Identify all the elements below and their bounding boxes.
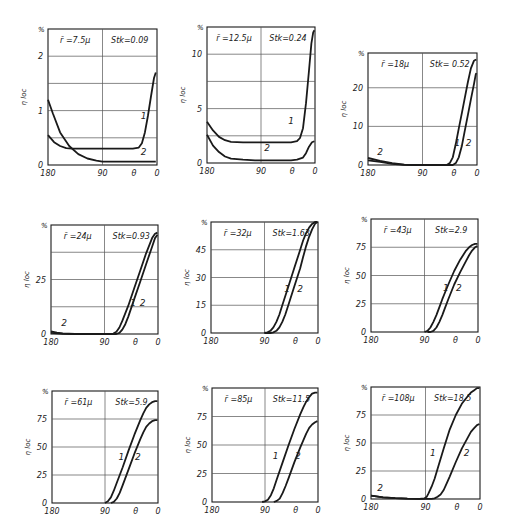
x-tick-label: 90 <box>260 506 270 515</box>
curve-label: 1 <box>443 283 449 293</box>
unit-label: % <box>202 385 209 393</box>
x-tick-label: 90 <box>417 169 427 178</box>
radius-label: r̄ =7.5μ <box>60 36 90 45</box>
chart-panel-2: r̄ =12.5μStk=0.24%0510η loc18090θ012 <box>179 24 318 176</box>
curve-2 <box>274 421 318 502</box>
x-tick-label: 0 <box>312 167 317 176</box>
x-tick-label: 0 <box>315 337 320 346</box>
curve-label: 2 <box>456 283 462 293</box>
curve-label: 2 <box>464 448 470 458</box>
curve-label: 2 <box>377 147 383 157</box>
x-tick-label: 180 <box>203 337 218 346</box>
x-tick-label: 90 <box>259 337 269 346</box>
y-axis-label: η loc <box>179 86 187 103</box>
unit-label: % <box>38 26 45 34</box>
radius-label: r̄ =108μ <box>382 394 415 403</box>
x-tick-label: θ <box>132 169 137 178</box>
curve-label: 1. <box>455 138 464 148</box>
stokes-label: Stk=0.93 <box>113 232 150 241</box>
y-tick-label: 25 <box>36 276 46 285</box>
curve-label: 2 <box>466 138 472 148</box>
unit-label: % <box>201 219 208 227</box>
x-tick-label: 180 <box>204 506 219 515</box>
y-tick-label: 1 <box>38 107 43 116</box>
x-tick-label: 90 <box>99 338 109 347</box>
y-tick-label: 25 <box>356 467 366 476</box>
x-tick-label: 180 <box>40 169 55 178</box>
chart-panel-3: r̄ =18μStk= 0.52%01020η loc18090θ01.22 <box>340 50 480 178</box>
curve-label: 1 <box>288 116 294 126</box>
y-tick-label: 45 <box>196 246 206 255</box>
x-tick-label: θ <box>133 338 138 347</box>
chart-panel-8: r̄ =85μStk=11.5%0255075η loc18090θ012 <box>184 385 321 515</box>
chart-panel-7: r̄ =61μStk=5.9%0255075η loc18090θ012 <box>24 388 161 516</box>
curve-1 <box>105 401 157 503</box>
chart-panel-5: r̄ =32μStk=1.63%0153045η loc18090θ012 <box>183 219 321 346</box>
curve-label: 2 <box>295 451 301 461</box>
y-tick-label: 75 <box>197 413 207 422</box>
x-tick-label: θ <box>293 506 298 515</box>
curve-label: 2 <box>141 147 147 157</box>
radius-label: r̄ =43μ <box>384 226 412 235</box>
y-tick-label: 20 <box>353 84 363 93</box>
curve-label: 2 <box>135 452 141 462</box>
stokes-label: Stk=11.5 <box>273 395 310 404</box>
curve-label: 2 <box>377 483 383 493</box>
radius-label: r̄ =18μ <box>381 60 409 69</box>
x-tick-label: 180 <box>363 503 378 512</box>
y-tick-label: 10 <box>353 122 363 131</box>
x-tick-label: 180 <box>43 338 58 347</box>
x-tick-label: 90 <box>97 169 107 178</box>
x-tick-label: 0 <box>477 503 482 512</box>
x-tick-label: θ <box>453 336 458 345</box>
y-axis-label: η loc <box>20 88 28 105</box>
y-axis-label: η loc <box>23 271 31 288</box>
stokes-label: Stk= 0.52 <box>430 60 470 69</box>
y-tick-label: 30 <box>196 274 206 283</box>
x-tick-label: 90 <box>420 503 430 512</box>
x-tick-label: 180 <box>199 167 214 176</box>
y-tick-label: 50 <box>356 272 366 281</box>
curve-label: 2 <box>140 298 146 308</box>
chart-panel-6: r̄ =43μStk=2.9%0255075η loc18090θ012 <box>343 216 481 345</box>
x-tick-label: 0 <box>475 336 480 345</box>
radius-label: r̄ =85μ <box>225 395 253 404</box>
x-tick-label: θ <box>293 337 298 346</box>
x-tick-label: 180 <box>360 169 375 178</box>
curve-label: 1 <box>273 451 279 461</box>
y-axis-label: η loc <box>24 438 32 455</box>
unit-label: % <box>41 222 48 230</box>
curve-label: 1 <box>430 448 436 458</box>
unit-label: % <box>358 50 365 58</box>
y-tick-label: 75 <box>37 415 47 424</box>
x-tick-label: 180 <box>363 336 378 345</box>
unit-label: % <box>361 216 368 224</box>
radius-label: r̄ =24μ <box>64 232 92 241</box>
radius-label: r̄ =12.5μ <box>216 34 251 43</box>
unit-label: % <box>361 384 368 392</box>
curve-1 <box>262 393 317 502</box>
radius-label: r̄ =61μ <box>65 398 93 407</box>
y-tick-label: 5 <box>197 105 202 114</box>
y-tick-label: 25 <box>37 471 47 480</box>
y-tick-label: 50 <box>356 439 366 448</box>
curve-label: 2 <box>297 284 303 294</box>
curve-label: 1 <box>119 452 125 462</box>
x-tick-label: θ <box>290 167 295 176</box>
x-tick-label: θ <box>452 169 457 178</box>
curve-label: 2 <box>264 143 270 153</box>
x-tick-label: 90 <box>100 507 110 516</box>
x-tick-label: 0 <box>474 169 479 178</box>
y-tick-label: 10 <box>192 50 202 59</box>
y-axis-label: η loc <box>340 100 348 117</box>
chart-panel-1: r̄ =7.5μStk=0.09%012η loc18090θ012 <box>20 26 160 178</box>
y-axis-label: η loc <box>183 269 191 286</box>
curve-label: 1 <box>130 298 136 308</box>
y-tick-label: 50 <box>197 441 207 450</box>
stokes-label: Stk=2.9 <box>435 226 467 235</box>
chart-panel-4: r̄ =24μStk=0.93%025η loc18090θ0122 <box>23 222 161 347</box>
y-axis-label: η loc <box>343 267 351 284</box>
radius-label: r̄ =32μ <box>224 229 252 238</box>
x-tick-label: 0 <box>155 507 160 516</box>
x-tick-label: 0 <box>315 506 320 515</box>
